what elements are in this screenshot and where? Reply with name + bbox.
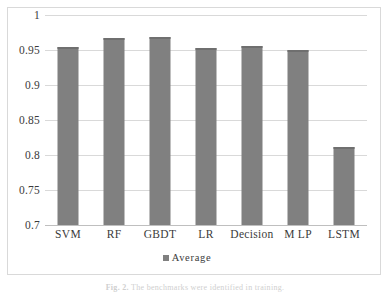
bar-cap xyxy=(58,47,79,49)
x-tick-label: LSTM xyxy=(328,228,360,240)
y-tick-label: 0.7 xyxy=(25,219,40,231)
bar-cap xyxy=(196,48,217,50)
figure-number: Fig. 2. xyxy=(106,283,129,292)
x-tick-label: M LP xyxy=(284,228,312,240)
x-tick-label: SVM xyxy=(55,228,81,240)
y-tick-label: 1 xyxy=(34,9,40,21)
y-tick-label: 0.85 xyxy=(19,114,40,126)
bar-lstm[interactable] xyxy=(334,147,355,225)
gridline-0-7 xyxy=(45,225,367,226)
bar-cap xyxy=(334,147,355,149)
bar-cap xyxy=(104,38,125,40)
bar-m-lp[interactable] xyxy=(288,50,309,225)
bar-rf[interactable] xyxy=(104,38,125,225)
y-axis-tick-labels: 10.950.90.850.80.750.7 xyxy=(7,15,43,225)
bar-decision[interactable] xyxy=(242,46,263,225)
bar-gbdt[interactable] xyxy=(150,37,171,225)
bar-chart-figure: 10.950.90.850.80.750.7 SVMRFGBDTLRDecisi… xyxy=(0,0,390,303)
bar-slot xyxy=(137,15,183,225)
figure-caption-text: The benchmarks were identified in traini… xyxy=(131,283,284,292)
bar-cap xyxy=(150,37,171,39)
bars-layer xyxy=(45,15,367,225)
bar-slot xyxy=(275,15,321,225)
x-tick-label: GBDT xyxy=(144,228,177,240)
bar-slot xyxy=(91,15,137,225)
y-tick-label: 0.95 xyxy=(19,44,40,56)
bar-svm[interactable] xyxy=(58,47,79,226)
y-tick-label: 0.9 xyxy=(25,79,40,91)
bar-slot xyxy=(45,15,91,225)
figure-caption: Fig. 2. The benchmarks were identified i… xyxy=(0,283,390,292)
x-tick-label: RF xyxy=(107,228,122,240)
bar-slot xyxy=(183,15,229,225)
bar-slot xyxy=(229,15,275,225)
bar-slot xyxy=(321,15,367,225)
bar-cap xyxy=(288,50,309,52)
bar-cap xyxy=(242,46,263,48)
x-tick-label: LR xyxy=(198,228,213,240)
legend-swatch-icon xyxy=(163,255,169,261)
bar-lr[interactable] xyxy=(196,48,217,225)
y-tick-label: 0.75 xyxy=(19,184,40,196)
y-tick-label: 0.8 xyxy=(25,149,40,161)
chart-legend: Average xyxy=(0,252,374,263)
legend-label: Average xyxy=(172,252,212,263)
x-axis-tick-labels: SVMRFGBDTLRDecisionM LPLSTM xyxy=(45,228,367,244)
x-tick-label: Decision xyxy=(230,228,273,240)
